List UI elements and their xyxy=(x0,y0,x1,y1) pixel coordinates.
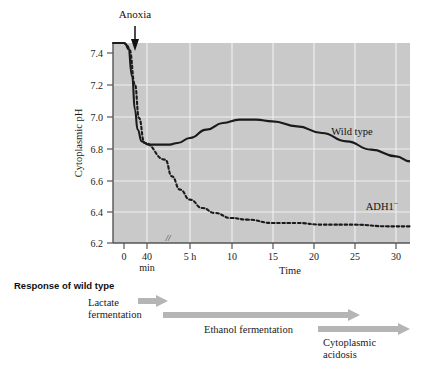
y-tick-label-7-4: 7.4 xyxy=(91,48,104,59)
ph-response-figure: 7.4 7.2 7.0 6.8 6.6 6.4 6.2 Cytoplasmic … xyxy=(0,0,423,367)
y-tick-label-6-4: 6.4 xyxy=(91,207,104,218)
x-tick-label-10: 10 xyxy=(227,251,237,262)
phase-1-label-line1: Lactate xyxy=(88,297,119,308)
phase-2-label-line1: Ethanol fermentation xyxy=(204,324,294,335)
wild-type-label: Wild type xyxy=(331,126,373,137)
phase-1-label-line2: fermentation xyxy=(88,309,142,320)
y-tick-label-7-0: 7.0 xyxy=(91,112,104,123)
cytoplasmic-acidosis-arrow-icon xyxy=(318,323,410,335)
x-tick-label-20: 20 xyxy=(309,251,319,262)
anoxia-label: Anoxia xyxy=(119,8,152,20)
x-tick-label-5h: 5 h xyxy=(184,251,197,262)
x-tick-label-25: 25 xyxy=(350,251,360,262)
phase-3-label-line1: Cytoplasmic xyxy=(323,337,376,348)
y-axis-ticks xyxy=(107,53,113,243)
ethanol-fermentation-arrow-icon xyxy=(163,309,360,321)
y-tick-label-6-6: 6.6 xyxy=(91,176,104,187)
figure-container: 7.4 7.2 7.0 6.8 6.6 6.4 6.2 Cytoplasmic … xyxy=(0,0,423,367)
y-tick-label-7-2: 7.2 xyxy=(91,80,104,91)
phase-3-label-line2: acidosis xyxy=(323,349,357,360)
lactate-fermentation-arrow-icon xyxy=(138,295,168,307)
caption-heading: Response of wild type xyxy=(14,280,114,291)
x-tick-label-15: 15 xyxy=(268,251,278,262)
x-tick-label-40: 40 xyxy=(142,251,152,262)
plot-background xyxy=(113,43,410,243)
x-tick-label-0: 0 xyxy=(122,251,127,262)
x-axis-ticks xyxy=(124,243,396,249)
x-tick-label-30: 30 xyxy=(391,251,401,262)
y-axis-title: Cytoplasmic pH xyxy=(73,108,84,177)
x-axis-title: Time xyxy=(279,265,301,276)
x-tick-sublabel-min: min xyxy=(139,262,155,273)
y-tick-label-6-8: 6.8 xyxy=(91,144,104,155)
y-tick-label-6-2: 6.2 xyxy=(91,238,104,249)
